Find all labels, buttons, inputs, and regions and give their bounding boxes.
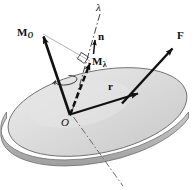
vector-n bbox=[94, 40, 96, 54]
label-origin: O bbox=[61, 117, 69, 128]
label-moment-lambda: Mλ bbox=[92, 56, 106, 67]
disk-face bbox=[0, 53, 195, 171]
label-axis-lambda: λ bbox=[96, 2, 101, 13]
label-moment-o-subscript: O bbox=[28, 31, 33, 40]
label-force: F bbox=[177, 30, 184, 41]
label-moment-lambda-subscript: λ bbox=[103, 60, 107, 69]
label-unit-normal: n bbox=[98, 31, 104, 42]
origin-point bbox=[69, 113, 71, 115]
label-moment-lambda-main: M bbox=[92, 55, 102, 67]
label-moment-o: MO bbox=[17, 27, 33, 38]
moment-about-axis-figure: MO Mλ n F r O λ bbox=[0, 0, 195, 190]
label-moment-o-main: M bbox=[17, 26, 27, 38]
label-position-vector: r bbox=[108, 81, 113, 92]
